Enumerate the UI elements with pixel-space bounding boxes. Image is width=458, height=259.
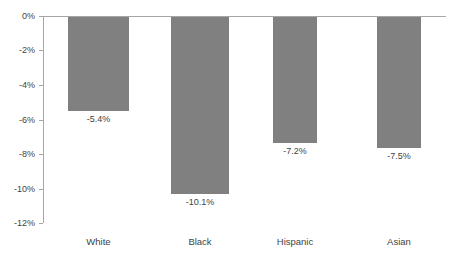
category-label-hispanic: Hispanic	[266, 236, 324, 248]
category-label-white: White	[68, 236, 129, 248]
bar-value-black: -10.1%	[171, 197, 229, 207]
bar-chart: 0% -2% -4% -6% -8% -10% -12% -5.4% -10.1…	[0, 0, 458, 259]
bar-value-asian: -7.5%	[377, 151, 421, 161]
y-tick-0	[39, 16, 43, 17]
bar-value-white: -5.4%	[68, 114, 129, 124]
bar-asian	[377, 17, 421, 148]
y-tick-6	[39, 223, 43, 224]
bar-black	[171, 17, 229, 194]
y-axis-label-2: -4%	[19, 80, 35, 90]
bar-white	[68, 17, 129, 111]
y-tick-2	[39, 85, 43, 86]
category-label-asian: Asian	[370, 236, 428, 248]
bar-hispanic	[273, 17, 317, 143]
y-axis-label-0: 0%	[22, 11, 35, 21]
y-tick-4	[39, 154, 43, 155]
bar-value-hispanic: -7.2%	[273, 146, 317, 156]
y-axis-label-4: -8%	[19, 149, 35, 159]
plot-area: 0% -2% -4% -6% -8% -10% -12% -5.4% -10.1…	[0, 0, 458, 259]
y-axis-label-6: -12%	[14, 218, 35, 228]
y-tick-1	[39, 50, 43, 51]
y-tick-3	[39, 120, 43, 121]
y-axis-line	[43, 16, 44, 223]
y-tick-5	[39, 189, 43, 190]
y-axis-label-5: -10%	[14, 184, 35, 194]
category-label-black: Black	[171, 236, 229, 248]
y-axis-label-3: -6%	[19, 115, 35, 125]
y-axis-label-1: -2%	[19, 45, 35, 55]
